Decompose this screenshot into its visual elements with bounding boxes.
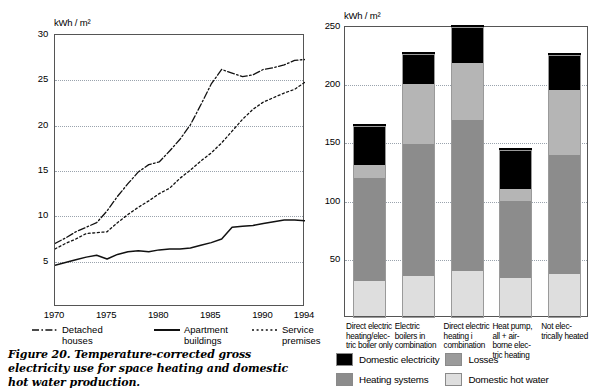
legend-label: Detachedhouses (62, 324, 103, 346)
legend-label: Domestic hot water (468, 374, 548, 385)
legend-item: Detachedhouses (32, 324, 103, 346)
stacked-bar (548, 53, 581, 316)
stacked-bar (353, 124, 386, 316)
bar-segment (353, 124, 386, 165)
bar-chart-plot-area (344, 26, 588, 317)
stacked-bar (402, 52, 435, 316)
legend-swatch-dash-dot (32, 327, 58, 333)
legend-swatch-dotted (252, 327, 278, 333)
bar-segment (548, 90, 581, 155)
category-label: Direct electric heating i combination (444, 322, 491, 351)
line-chart-unit-label: kWh / m² (54, 18, 90, 28)
x-tick-label: 1975 (86, 310, 126, 320)
x-tick-label: 1980 (138, 310, 178, 320)
legend-swatch (336, 373, 353, 386)
legend-label: Domestic electricity (359, 354, 439, 365)
y-tick-label: 250 (314, 21, 340, 31)
bar-segment (451, 271, 484, 316)
y-tick-label: 10 (8, 210, 48, 220)
category-label: Direct electric heating/elec- tric boile… (346, 322, 393, 351)
y-tick-label: 150 (314, 137, 340, 147)
legend-swatch (336, 353, 353, 366)
figure-20: kWh / m² 51015202530 1970197519801985199… (0, 0, 606, 392)
line-chart-plot-area (54, 34, 304, 306)
bar-segment (451, 120, 484, 270)
bar-segment (402, 52, 435, 85)
bar-segment (499, 278, 532, 316)
bar-chart-legend: Domestic electricityLossesHeating system… (336, 353, 549, 386)
bar-segment (353, 165, 386, 178)
bar-segment (353, 281, 386, 316)
legend-label-line1: Detached (62, 324, 103, 335)
legend-label-line2: buildings (184, 335, 228, 346)
bar-segment (451, 63, 484, 120)
bar-segment (499, 189, 532, 201)
y-tick-label: 20 (8, 120, 48, 130)
bar-segment (402, 84, 435, 143)
bar-segment (499, 148, 532, 189)
bar-segment (548, 155, 581, 274)
bar-segment (499, 201, 532, 278)
line-chart-panel: kWh / m² 51015202530 1970197519801985199… (8, 8, 308, 338)
bar-segment (451, 25, 484, 63)
bar-chart-panel: kWh / m² 50100150200250 Direct electric … (314, 8, 602, 384)
stacked-bar (499, 148, 532, 316)
bar-segment (353, 178, 386, 282)
y-tick-label: 25 (8, 74, 48, 84)
bar-chart-unit-label: kWh / m² (344, 11, 380, 21)
x-tick-label: 1985 (190, 310, 230, 320)
legend-item: Servicepremises (252, 324, 321, 346)
y-tick-label: 30 (8, 29, 48, 39)
y-tick-label: 15 (8, 165, 48, 175)
y-tick-label: 50 (314, 254, 340, 264)
category-label: Electric boilers in combination (395, 322, 442, 351)
legend-swatch-solid (154, 327, 180, 333)
y-tick-label: 100 (314, 196, 340, 206)
legend-label: Losses (468, 354, 548, 365)
legend-swatch (445, 373, 462, 386)
bar-segment (548, 53, 581, 90)
bar-segment (548, 274, 581, 316)
legend-item: Apartmentbuildings (154, 324, 228, 346)
x-tick-label: 1990 (242, 310, 282, 320)
legend-label: Apartmentbuildings (184, 324, 228, 346)
legend-label-line2: houses (62, 335, 103, 346)
y-tick-label: 200 (314, 79, 340, 89)
legend-label-line1: Apartment (184, 324, 228, 335)
legend-label: Heating systems (359, 374, 439, 385)
bar-segment (402, 276, 435, 316)
legend-swatch (445, 353, 462, 366)
x-tick-label: 1970 (34, 310, 74, 320)
line-series-dash-dot (55, 59, 305, 243)
y-tick-label: 5 (8, 256, 48, 266)
line-series-solid (55, 220, 305, 265)
line-chart-series-layer (55, 35, 305, 307)
category-label: Not elec- trically heated (541, 322, 588, 341)
figure-caption: Figure 20. Temperature-corrected gross e… (8, 348, 308, 390)
stacked-bar (451, 25, 484, 316)
bar-segment (402, 144, 435, 277)
